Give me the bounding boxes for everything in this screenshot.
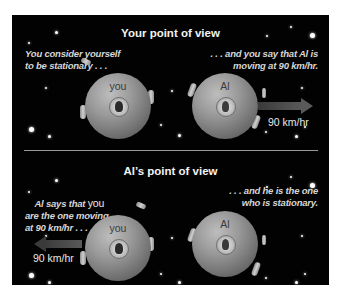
star-icon bbox=[29, 127, 34, 132]
spaceship-you: you bbox=[85, 215, 151, 281]
space-diagram-panel: Your point of view You consider yourself… bbox=[12, 15, 329, 285]
caption-al-moving: . . . and you say that Al is moving at 9… bbox=[210, 48, 318, 72]
person-window-icon bbox=[109, 239, 129, 259]
speed-label-top: 90 km/hr bbox=[268, 116, 309, 128]
star-icon bbox=[301, 87, 303, 89]
section-title-al-view: Al’s point of view bbox=[12, 165, 329, 177]
star-icon bbox=[160, 273, 162, 275]
star-icon bbox=[29, 273, 34, 278]
caption-al-says: Al says that bbox=[34, 198, 87, 209]
caption-al-stationary: . . . and he is the one who is stationar… bbox=[229, 185, 318, 209]
spaceship-al: Al bbox=[192, 211, 258, 277]
star-icon bbox=[160, 124, 162, 126]
star-icon bbox=[45, 87, 47, 89]
spaceship-you: you bbox=[85, 73, 151, 139]
person-window-icon bbox=[216, 97, 236, 117]
section-divider bbox=[24, 150, 318, 151]
motion-arrow-right-icon bbox=[258, 102, 302, 110]
person-window-icon bbox=[109, 97, 129, 117]
star-icon bbox=[295, 281, 298, 284]
caption-you-word: you bbox=[88, 197, 104, 209]
spaceship-fin bbox=[262, 235, 266, 245]
arrow-head-icon bbox=[301, 98, 313, 114]
section-title-your-view: Your point of view bbox=[12, 27, 329, 39]
star-icon bbox=[55, 179, 58, 182]
motion-arrow-left-icon bbox=[45, 240, 82, 248]
star-icon bbox=[178, 281, 181, 284]
caption-you-stationary: You consider yourself to be stationary .… bbox=[25, 48, 120, 72]
spaceship-al: Al bbox=[192, 73, 258, 139]
sphere-label-al: Al bbox=[192, 80, 258, 92]
speed-label-bottom: 90 km/hr bbox=[33, 252, 74, 264]
sphere-label-you: you bbox=[85, 222, 151, 234]
star-icon bbox=[301, 235, 303, 237]
star-icon bbox=[295, 135, 298, 138]
spaceship-fin bbox=[262, 88, 266, 98]
spaceship-fin bbox=[135, 201, 146, 210]
star-icon bbox=[304, 273, 306, 275]
spaceship-fin bbox=[251, 261, 261, 276]
sphere-label-you: you bbox=[85, 80, 151, 92]
star-icon bbox=[265, 277, 267, 279]
person-window-icon bbox=[216, 235, 236, 255]
star-icon bbox=[48, 135, 51, 138]
star-icon bbox=[171, 90, 173, 92]
star-icon bbox=[48, 281, 51, 284]
star-icon bbox=[178, 134, 181, 137]
star-icon bbox=[265, 131, 267, 133]
star-icon bbox=[171, 237, 173, 239]
sphere-label-al: Al bbox=[192, 218, 258, 230]
star-icon bbox=[28, 42, 30, 44]
